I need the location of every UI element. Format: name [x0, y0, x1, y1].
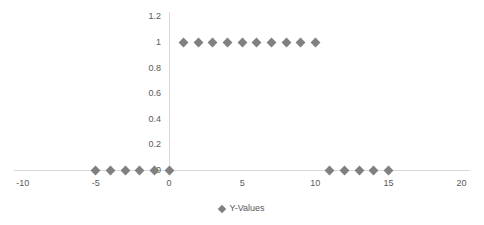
- x-tick-label: 5: [224, 178, 260, 189]
- data-point: [354, 165, 364, 175]
- data-point: [296, 37, 306, 47]
- data-point: [281, 37, 291, 47]
- x-tick-label: -5: [78, 178, 114, 189]
- legend-diamond-icon: [218, 204, 226, 212]
- data-point: [325, 165, 335, 175]
- x-tick-label: 15: [370, 178, 406, 189]
- data-point: [369, 165, 379, 175]
- chart-container: 00.20.40.60.811.2 -10-505101520 Y-Values: [0, 0, 484, 225]
- x-tick-label: 20: [444, 178, 480, 189]
- data-point: [208, 37, 218, 47]
- y-axis-line: [169, 12, 170, 171]
- y-tick-label: 0.4: [127, 114, 161, 125]
- x-tick-label: 10: [297, 178, 333, 189]
- chart-legend: Y-Values: [0, 203, 484, 214]
- data-point: [340, 165, 350, 175]
- y-tick-label: 0.6: [127, 88, 161, 99]
- data-point: [179, 37, 189, 47]
- y-tick-label: 0.2: [127, 139, 161, 150]
- x-tick-label: 0: [151, 178, 187, 189]
- data-point: [252, 37, 262, 47]
- y-tick-label: 0.8: [127, 63, 161, 74]
- data-point: [266, 37, 276, 47]
- data-point: [91, 165, 101, 175]
- y-tick-label: 1: [127, 37, 161, 48]
- x-axis-line: [14, 170, 470, 171]
- data-point: [193, 37, 203, 47]
- data-point: [223, 37, 233, 47]
- x-tick-label: -10: [5, 178, 41, 189]
- data-point: [310, 37, 320, 47]
- data-point: [106, 165, 116, 175]
- data-point: [237, 37, 247, 47]
- data-point: [383, 165, 393, 175]
- data-point: [164, 165, 174, 175]
- y-tick-label: 1.2: [127, 11, 161, 22]
- legend-label: Y-Values: [229, 203, 264, 214]
- plot-area: 00.20.40.60.811.2 -10-505101520: [0, 0, 484, 225]
